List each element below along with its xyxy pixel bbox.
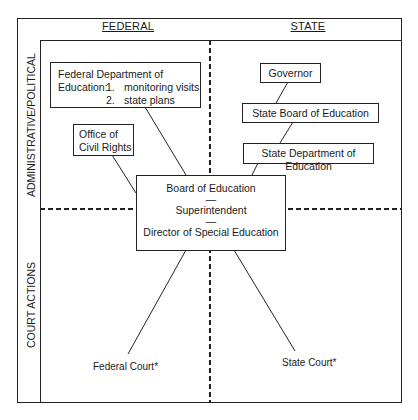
fed-dept-item-1-text: monitoring visits xyxy=(124,81,199,94)
fed-dept-prefix: Education: xyxy=(58,81,106,94)
director-special-education-label: Director of Special Education xyxy=(137,227,285,238)
state-board-of-education-box: State Board of Education xyxy=(242,103,379,123)
state-court-label: State Court* xyxy=(282,357,336,368)
federal-court-label: Federal Court* xyxy=(93,361,158,372)
fed-dept-title: Federal Department of xyxy=(58,68,200,81)
ocr-line-1: Office of xyxy=(79,128,133,141)
fed-dept-item-1-num: 1. xyxy=(106,81,124,94)
governor-box: Governor xyxy=(260,63,321,83)
local-education-authority-box: Board of Education — Superintendent — Di… xyxy=(136,175,286,251)
office-of-civil-rights-box: Office of Civil Rights xyxy=(73,124,134,156)
fed-dept-item-2-text: state plans xyxy=(124,94,175,107)
state-department-of-education-box: State Department of Education xyxy=(243,143,374,164)
governor-label: Governor xyxy=(269,67,313,79)
state-board-label: State Board of Education xyxy=(252,107,369,119)
ocr-line-2: Civil Rights xyxy=(79,141,133,154)
federal-department-of-education-box: Federal Department of Education: 1. moni… xyxy=(50,62,201,108)
fed-dept-item-2-num: 2. xyxy=(106,94,124,107)
